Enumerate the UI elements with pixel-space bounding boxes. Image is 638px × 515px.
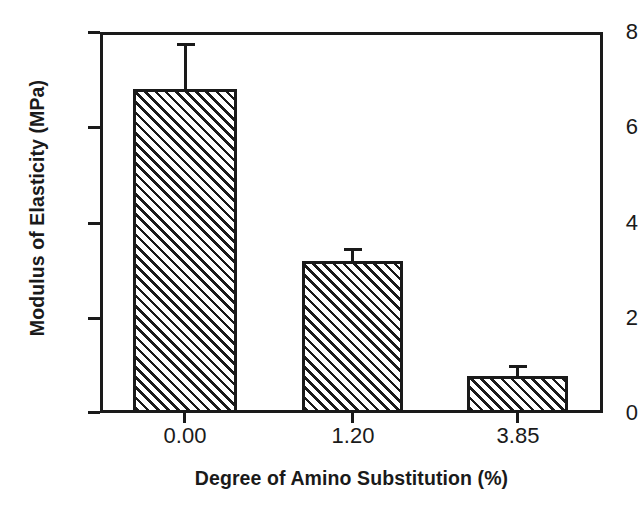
bar-2 <box>467 376 568 413</box>
y-tick-mark-6 <box>88 126 100 129</box>
y-tick-label-6: 6 <box>604 116 638 138</box>
error-bar-cap-2 <box>509 365 527 368</box>
error-bar-stem-1 <box>351 249 354 263</box>
x-axis-title: Degree of Amino Substitution (%) <box>100 467 603 490</box>
error-bar-stem-0 <box>184 44 187 91</box>
y-tick-mark-4 <box>88 222 100 225</box>
bar-chart-figure: Modulus of Elasticity (MPa) 8 6 4 2 0 0.… <box>0 0 638 515</box>
y-axis-title: Modulus of Elasticity (MPa) <box>17 8 57 408</box>
y-tick-mark-8 <box>88 31 100 34</box>
y-tick-label-8: 8 <box>604 21 638 43</box>
y-tick-mark-2 <box>88 317 100 320</box>
x-tick-label-2: 3.85 <box>458 425 578 447</box>
x-tick-label-0: 0.00 <box>125 425 245 447</box>
error-bar-cap-1 <box>344 248 362 251</box>
y-tick-label-4: 4 <box>604 212 638 234</box>
bar-1 <box>302 261 403 413</box>
y-tick-mark-0 <box>88 411 100 414</box>
x-tick-mark-2 <box>516 413 519 423</box>
y-tick-label-0: 0 <box>604 402 638 424</box>
x-tick-label-1: 1.20 <box>293 425 413 447</box>
bar-0 <box>133 89 237 413</box>
x-tick-mark-0 <box>183 413 186 423</box>
y-tick-label-2: 2 <box>604 307 638 329</box>
error-bar-cap-0 <box>177 43 195 46</box>
x-tick-mark-1 <box>351 413 354 423</box>
